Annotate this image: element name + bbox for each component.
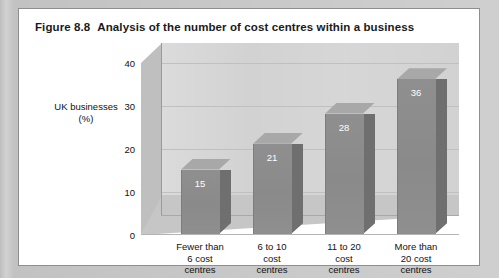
x-category-line-3: centres bbox=[376, 264, 456, 276]
x-category-line-2: cost bbox=[232, 253, 312, 265]
plot-3d-box: 15 21 28 36 bbox=[141, 43, 459, 241]
x-category-line-2: cost bbox=[304, 253, 384, 265]
figure-page: Figure 8.8Analysis of the number of cost… bbox=[0, 0, 499, 278]
x-category-line-1: More than bbox=[376, 241, 456, 253]
bar-more-than-20: 36 bbox=[397, 79, 435, 234]
bar-value-label: 36 bbox=[397, 87, 435, 98]
y-tick-label-20: 20 bbox=[111, 144, 135, 155]
x-category-label-2: 11 to 20 cost centres bbox=[304, 241, 384, 276]
bar-side-face bbox=[435, 79, 447, 234]
bar-front-face bbox=[397, 79, 436, 234]
x-category-line-2: 6 cost bbox=[160, 253, 240, 265]
gridline-40 bbox=[161, 63, 459, 64]
x-category-line-3: centres bbox=[232, 264, 312, 276]
bar-side-face bbox=[219, 170, 231, 235]
y-axis-line bbox=[161, 43, 162, 215]
x-category-line-1: 11 to 20 bbox=[304, 241, 384, 253]
floor-front-edge bbox=[141, 234, 459, 235]
bar-6-to-10: 21 bbox=[253, 144, 291, 234]
x-category-line-1: Fewer than bbox=[160, 241, 240, 253]
chart-plot-region: UK businesses (%) 40 30 20 10 0 bbox=[19, 31, 479, 265]
y-axis-title-line-3: (%) bbox=[79, 113, 94, 124]
x-category-label-0: Fewer than 6 cost centres bbox=[160, 241, 240, 276]
x-category-label-3: More than 20 cost centres bbox=[376, 241, 456, 276]
y-tick-label-30: 30 bbox=[111, 101, 135, 112]
bar-fewer-than-6: 15 bbox=[181, 170, 219, 235]
y-tick-label-10: 10 bbox=[111, 187, 135, 198]
y-tick-label-40: 40 bbox=[111, 58, 135, 69]
bar-value-label: 15 bbox=[181, 178, 219, 189]
bar-11-to-20: 28 bbox=[325, 114, 363, 234]
x-category-line-3: centres bbox=[304, 264, 384, 276]
figure-card: Figure 8.8Analysis of the number of cost… bbox=[18, 8, 480, 266]
x-category-line-1: 6 to 10 bbox=[232, 241, 312, 253]
bar-value-label: 21 bbox=[253, 152, 291, 163]
y-tick-label-0: 0 bbox=[111, 230, 135, 241]
x-category-label-1: 6 to 10 cost centres bbox=[232, 241, 312, 276]
bar-value-label: 28 bbox=[325, 122, 363, 133]
bar-side-face bbox=[291, 144, 303, 234]
x-category-line-2: 20 cost bbox=[376, 253, 456, 265]
bar-side-face bbox=[363, 114, 375, 234]
x-category-line-3: centres bbox=[160, 264, 240, 276]
y-axis-title-line-1: UK bbox=[54, 101, 67, 112]
